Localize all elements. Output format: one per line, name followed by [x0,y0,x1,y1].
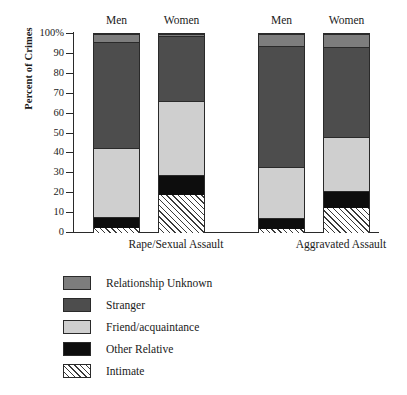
y-tick-label: 0 [2,227,64,237]
y-tick-label: 100% [2,28,64,38]
y-tick-mark [66,113,73,114]
y-tick-label: 10 [2,207,64,217]
bar-segment-intimate [94,228,139,233]
bar-segment-intimate [324,208,369,233]
bar-segment-friend-acquaintance [94,148,139,217]
y-tick-mark [66,33,73,34]
legend-label-stranger: Stranger [106,299,145,311]
legend-item-unknown[interactable]: Relationship Unknown [63,272,393,294]
legend-swatch-friend-icon [63,320,91,334]
bar-segment-friend-acquaintance [259,167,304,218]
bar-segment-relationship-unknown [259,34,304,46]
bar-header-women-3: Women [317,14,377,26]
legend-label-intimate: Intimate [106,365,144,377]
bar-segment-other-relative [94,217,139,228]
y-tick-label: 40 [2,147,64,157]
y-tick-mark [66,152,73,153]
legend-item-stranger[interactable]: Stranger [63,294,393,316]
bar-segment-stranger [324,47,369,138]
bar-segment-other-relative [259,218,304,229]
y-tick-label: 80 [2,68,64,78]
y-tick-label: 50 [2,128,64,138]
legend-swatch-stranger-icon [63,298,91,312]
y-tick-mark [66,172,73,173]
y-tick-mark [66,192,73,193]
bar-segment-friend-acquaintance [159,101,204,176]
legend-swatch-unknown-icon [63,276,91,290]
legend-label-friend: Friend/acquaintance [106,321,199,333]
bar-segment-relationship-unknown [324,34,369,47]
bar-segment-stranger [94,42,139,148]
bar-header-men-0: Men [87,14,147,26]
x-axis-label-0: Rape/Sexual Assault [86,238,266,250]
y-tick-mark [66,53,73,54]
bar-segment-intimate [159,195,204,233]
bar-segment-relationship-unknown [159,34,204,36]
bar-segment-friend-acquaintance [324,137,369,191]
legend-item-friend[interactable]: Friend/acquaintance [63,316,393,338]
stacked-bar-chart: Percent of Crimes 100%908070605040302010… [0,0,407,395]
legend-label-other: Other Relative [106,343,173,355]
legend-item-intimate[interactable]: Intimate [63,360,393,382]
y-tick-mark [66,232,73,233]
x-axis-label-1: Aggravated Assault [251,238,407,250]
y-tick-label: 90 [2,48,64,58]
y-tick-mark [66,73,73,74]
y-tick-mark [66,93,73,94]
bar-segment-relationship-unknown [94,34,139,42]
bar-header-men-2: Men [252,14,312,26]
legend-swatch-intimate-icon [63,364,91,378]
bar-segment-stranger [259,46,304,167]
legend: Relationship UnknownStrangerFriend/acqua… [63,272,393,382]
bar-rape-men [93,33,140,232]
bar-rape-women [158,33,205,232]
y-tick-label: 30 [2,167,64,177]
bar-segment-stranger [159,36,204,101]
y-tick-mark [66,133,73,134]
bar-segment-intimate [259,229,304,233]
legend-swatch-other-icon [63,342,91,356]
legend-label-unknown: Relationship Unknown [106,277,212,289]
bar-segment-other-relative [324,191,369,208]
y-tick-label: 60 [2,108,64,118]
y-axis-line [73,32,74,233]
bar-aggravated-men [258,33,305,232]
y-tick-mark [66,212,73,213]
bar-aggravated-women [323,33,370,232]
bar-header-women-1: Women [152,14,212,26]
y-tick-label: 70 [2,88,64,98]
y-tick-label: 20 [2,187,64,197]
bar-segment-other-relative [159,175,204,195]
legend-item-other[interactable]: Other Relative [63,338,393,360]
